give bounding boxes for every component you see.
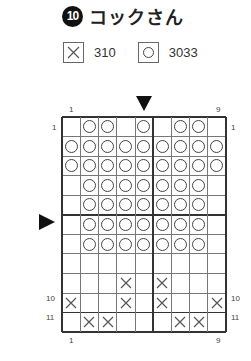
grid-cell xyxy=(98,312,116,332)
grid-cell xyxy=(171,137,189,157)
circle-stitch-icon xyxy=(119,159,132,172)
circle-stitch-icon xyxy=(137,218,150,231)
grid-line xyxy=(80,117,81,332)
circle-stitch-icon xyxy=(137,120,150,133)
grid-line xyxy=(62,253,226,254)
grid-line xyxy=(116,117,117,332)
grid-cell xyxy=(208,117,226,137)
circle-stitch-icon xyxy=(83,159,96,172)
grid-cell xyxy=(98,234,116,254)
grid-line xyxy=(62,214,226,216)
circle-stitch-icon xyxy=(101,159,114,172)
grid-cell xyxy=(208,234,226,254)
grid-cell xyxy=(62,254,80,274)
legend: 310 3033 xyxy=(63,42,220,63)
grid-cell xyxy=(117,215,135,235)
left-tick-11: 11 xyxy=(46,313,54,322)
circle-stitch-icon xyxy=(119,198,132,211)
right-tick-1: 1 xyxy=(231,123,235,132)
circle-stitch-icon xyxy=(119,179,132,192)
circle-stitch-icon xyxy=(137,159,150,172)
grid-cell xyxy=(171,215,189,235)
cross-stitch-icon xyxy=(83,316,95,328)
legend-label-x: 310 xyxy=(94,45,116,60)
bottom-tick-9: 9 xyxy=(216,336,220,345)
circle-stitch-icon xyxy=(83,198,96,211)
grid-cell xyxy=(117,293,135,313)
grid-cell xyxy=(171,254,189,274)
circle-stitch-icon xyxy=(83,218,96,231)
grid-cell xyxy=(208,137,226,157)
grid-cell xyxy=(190,176,208,196)
grid-cell xyxy=(62,273,80,293)
grid-cell xyxy=(153,312,171,332)
grid-cell xyxy=(171,195,189,215)
circle-stitch-icon xyxy=(174,218,187,231)
grid-cell xyxy=(135,293,153,313)
grid-cell xyxy=(62,195,80,215)
circle-stitch-icon xyxy=(156,159,169,172)
grid-cell xyxy=(171,176,189,196)
cross-stitch-icon xyxy=(156,297,168,309)
left-tick-10: 10 xyxy=(46,294,55,303)
circle-stitch-icon xyxy=(174,179,187,192)
grid-cell xyxy=(117,195,135,215)
legend-item-o: 3033 xyxy=(138,42,198,63)
grid-cell xyxy=(62,176,80,196)
grid-cell xyxy=(135,176,153,196)
circle-stitch-icon xyxy=(137,140,150,153)
grid-cell xyxy=(135,312,153,332)
grid-cell xyxy=(153,215,171,235)
circle-stitch-icon xyxy=(192,238,205,251)
grid-cell xyxy=(153,234,171,254)
grid-cell xyxy=(190,137,208,157)
grid-cell xyxy=(171,117,189,137)
circle-stitch-icon xyxy=(119,140,132,153)
grid-cell xyxy=(117,117,135,137)
right-tick-10: 10 xyxy=(231,294,240,303)
grid-cell xyxy=(62,215,80,235)
circle-stitch-icon xyxy=(101,238,114,251)
right-tick-11: 11 xyxy=(231,313,239,322)
grid-cell xyxy=(135,195,153,215)
cross-stitch-icon xyxy=(174,316,186,328)
grid-line xyxy=(62,116,226,118)
grid-cell xyxy=(153,176,171,196)
grid-cell xyxy=(208,195,226,215)
grid-line xyxy=(62,273,226,274)
grid-cell xyxy=(190,195,208,215)
grid-cell xyxy=(62,156,80,176)
grid-line xyxy=(62,175,226,176)
grid-cell xyxy=(80,195,98,215)
grid-cell xyxy=(135,137,153,157)
grid-cell xyxy=(98,254,116,274)
grid-cell xyxy=(135,234,153,254)
grid-cell xyxy=(117,176,135,196)
cross-stitch-icon xyxy=(120,297,132,309)
grid-cell xyxy=(62,137,80,157)
grid-line xyxy=(62,234,226,235)
circle-stitch-icon xyxy=(156,238,169,251)
grid-cell xyxy=(62,117,80,137)
cross-stitch-icon xyxy=(65,297,77,309)
left-tick-1: 1 xyxy=(52,123,56,132)
grid-cell xyxy=(208,312,226,332)
grid-line xyxy=(189,117,190,332)
grid-cell xyxy=(208,293,226,313)
grid-cell xyxy=(98,156,116,176)
center-row-arrow-icon xyxy=(39,214,55,230)
circle-stitch-icon xyxy=(192,218,205,231)
grid-cell xyxy=(190,273,208,293)
grid-cell xyxy=(135,215,153,235)
grid-line xyxy=(152,117,154,332)
circle-stitch-icon xyxy=(174,140,187,153)
grid-cell xyxy=(153,293,171,313)
grid-cell xyxy=(153,137,171,157)
cross-stitch-icon xyxy=(211,297,223,309)
grid-line xyxy=(61,117,63,332)
grid-cell xyxy=(80,215,98,235)
circle-stitch-icon xyxy=(174,198,187,211)
cross-stitch-icon xyxy=(102,316,114,328)
grid-cell xyxy=(190,293,208,313)
grid-cell xyxy=(62,234,80,254)
